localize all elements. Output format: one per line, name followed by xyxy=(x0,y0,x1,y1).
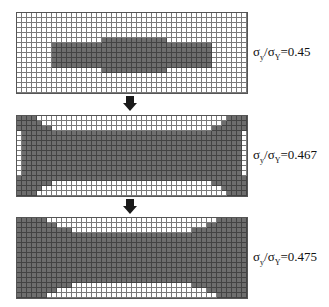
material-cell xyxy=(242,293,247,298)
stress-ratio-label-stage-2: σy/σY=0.467 xyxy=(253,147,317,165)
down-arrow-icon xyxy=(123,96,137,111)
ratio-value: =0.45 xyxy=(280,44,310,59)
grid-panel-stage-1 xyxy=(16,12,248,94)
stress-ratio-label-stage-1: σy/σY=0.45 xyxy=(253,44,311,62)
mesh-grid xyxy=(16,115,248,197)
mesh-grid xyxy=(16,217,248,299)
sigma-symbol: σ xyxy=(268,249,275,264)
sigma-symbol: σ xyxy=(253,147,260,162)
down-arrow-icon xyxy=(123,199,137,214)
material-cell xyxy=(242,191,247,196)
grid-panel-stage-3 xyxy=(16,217,248,299)
void-cell xyxy=(242,88,247,93)
sigma-symbol: σ xyxy=(253,249,260,264)
grid-panel-stage-2 xyxy=(16,115,248,197)
ratio-value: =0.467 xyxy=(280,147,317,162)
mesh-grid xyxy=(16,12,248,94)
sigma-symbol: σ xyxy=(253,44,260,59)
ratio-value: =0.475 xyxy=(280,249,317,264)
sigma-symbol: σ xyxy=(268,147,275,162)
sigma-symbol: σ xyxy=(268,44,275,59)
stress-ratio-label-stage-3: σy/σY=0.475 xyxy=(253,249,317,267)
